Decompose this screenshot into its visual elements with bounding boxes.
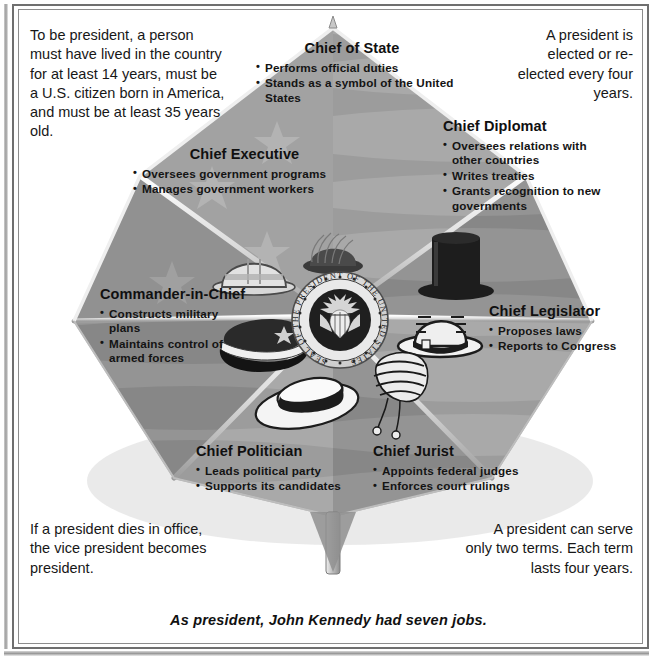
figure-caption: As president, John Kennedy had seven job… [0,612,657,628]
note-term-limits: A president can serve only two terms. Ea… [465,520,633,578]
panel-title: Chief Jurist [373,443,551,461]
panel-bullets: Oversees relations with other countries … [443,139,603,213]
list-item: Appoints federal judges [373,464,551,478]
panel-title: Chief of State [256,40,466,58]
list-item: Writes treaties [443,169,603,183]
panel-chief-politician: Chief Politician Leads political party S… [196,443,371,495]
list-item: Enforces court rulings [373,479,551,493]
presidential-seal: SEAL OF THE PRESIDENT OF THE UNITED STAT… [290,270,390,370]
panel-bullets: Performs official duties Stands as a sym… [256,61,466,105]
panel-title: Chief Executive [133,146,338,164]
list-item: Leads political party [196,464,371,478]
list-item: Oversees relations with other countries [443,139,603,168]
panel-chief-legislator: Chief Legislator Proposes laws Reports t… [489,303,637,355]
panel-title: Chief Diplomat [443,118,603,136]
panel-chief-executive: Chief Executive Oversees government prog… [133,146,338,198]
list-item: Supports its candidates [196,479,371,493]
panel-chief-of-state: Chief of State Performs official duties … [256,40,466,106]
list-item: Constructs military plans [100,307,252,336]
panel-bullets: Leads political party Supports its candi… [196,464,371,494]
page-frame-left-edge [4,4,8,649]
panel-bullets: Appoints federal judges Enforces court r… [373,464,551,494]
panel-bullets: Constructs military plans Maintains cont… [100,307,252,366]
list-item: Performs official duties [256,61,466,75]
panel-title: Commander-in-Chief [100,286,252,304]
panel-bullets: Oversees government programs Manages gov… [133,167,338,197]
note-succession: If a president dies in office, the vice … [30,520,210,578]
note-election-cycle: A president is elected or re-elected eve… [505,26,633,103]
list-item: Manages government workers [133,182,338,196]
panel-title: Chief Legislator [489,303,637,321]
panel-chief-jurist: Chief Jurist Appoints federal judges Enf… [373,443,551,495]
list-item: Proposes laws [489,324,637,338]
page-frame-bottom-edge [4,651,649,656]
diagram-page: SEAL OF THE PRESIDENT OF THE UNITED STAT… [0,0,657,663]
list-item: Grants recognition to new governments [443,184,603,213]
panel-commander-in-chief: Commander-in-Chief Constructs military p… [100,286,252,367]
list-item: Stands as a symbol of the United States [256,76,466,105]
list-item: Maintains control of armed forces [100,337,252,366]
panel-title: Chief Politician [196,443,371,461]
panel-bullets: Proposes laws Reports to Congress [489,324,637,354]
list-item: Reports to Congress [489,339,637,353]
panel-chief-diplomat: Chief Diplomat Oversees relations with o… [443,118,603,215]
note-eligibility-requirements: To be president, a person must have live… [30,26,226,142]
list-item: Oversees government programs [133,167,338,181]
